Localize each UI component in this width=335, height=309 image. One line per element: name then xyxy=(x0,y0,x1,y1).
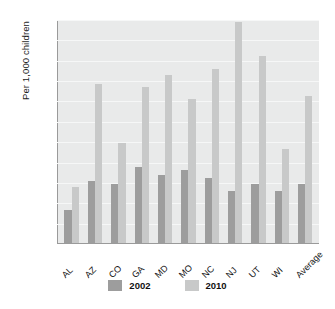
x-tick-label: GA xyxy=(130,264,146,280)
x-tick-label: NC xyxy=(200,264,216,280)
plot-area: 22.020.018.016.014.012.010.08.06.04.02.0… xyxy=(57,20,319,244)
legend-item: 2010 xyxy=(185,280,227,291)
bar-group xyxy=(200,20,223,244)
bar-group xyxy=(270,20,293,244)
bar-group xyxy=(294,20,317,244)
x-tick-label: MO xyxy=(177,263,194,280)
bar xyxy=(158,175,165,244)
bar-group xyxy=(153,20,176,244)
bar-chart: Per 1,000 children 22.020.018.016.014.01… xyxy=(0,0,335,309)
x-tick-label: MD xyxy=(153,263,170,280)
bar xyxy=(251,184,258,244)
x-tick-label: AL xyxy=(60,265,75,280)
bar xyxy=(298,184,305,244)
bar xyxy=(228,191,235,244)
y-axis-title: Per 1,000 children xyxy=(20,0,31,146)
bar-group xyxy=(224,20,247,244)
chart-legend: 20022010 xyxy=(0,280,335,291)
bar xyxy=(188,99,195,244)
bar xyxy=(282,149,289,244)
bar xyxy=(135,167,142,244)
x-tick-label: NJ xyxy=(223,265,238,280)
legend-swatch-icon xyxy=(185,280,199,291)
bar xyxy=(259,56,266,244)
x-tick-label: UT xyxy=(247,264,263,280)
bar xyxy=(212,69,219,244)
x-tick-label: CO xyxy=(107,263,124,280)
bar-group xyxy=(107,20,130,244)
bar xyxy=(95,84,102,244)
legend-item: 2002 xyxy=(108,280,150,291)
bar xyxy=(181,170,188,244)
legend-swatch-icon xyxy=(108,280,122,291)
bar-groups xyxy=(57,20,319,244)
bar xyxy=(118,143,125,244)
bar xyxy=(205,178,212,244)
bar xyxy=(142,87,149,244)
bar-group xyxy=(83,20,106,244)
bar xyxy=(235,22,242,244)
bar xyxy=(305,96,312,244)
bar xyxy=(72,187,79,244)
legend-label: 2010 xyxy=(206,280,227,291)
x-tick-label: WI xyxy=(270,265,285,280)
x-axis-tick-labels: ALAZCOGAMDMONCNJUTWIAverage xyxy=(57,246,319,280)
x-tick-label: Average xyxy=(294,249,325,280)
bar-group xyxy=(130,20,153,244)
bar xyxy=(275,191,282,244)
bar-group xyxy=(60,20,83,244)
bar-group xyxy=(177,20,200,244)
legend-label: 2002 xyxy=(129,280,150,291)
bar xyxy=(111,184,118,244)
bar xyxy=(88,181,95,244)
bar xyxy=(165,75,172,244)
x-axis-line xyxy=(57,243,319,244)
bar xyxy=(64,210,71,244)
x-tick-label: AZ xyxy=(83,265,98,280)
bar-group xyxy=(247,20,270,244)
